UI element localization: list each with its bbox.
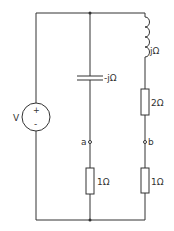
source-plus: + xyxy=(33,106,40,115)
resistor-middle xyxy=(86,168,94,194)
inductor xyxy=(145,13,150,89)
resistor-middle-label: 1Ω xyxy=(97,177,110,187)
capacitor-label: -jΩ xyxy=(104,73,117,83)
node-a-label: a xyxy=(81,137,87,147)
node-b-terminal xyxy=(144,141,147,144)
circuit-diagram: V + - -jΩ jΩ 2Ω a b 1Ω 1Ω xyxy=(0,0,174,231)
junction-bottom xyxy=(89,219,92,222)
node-b-label: b xyxy=(148,137,154,147)
junction-top xyxy=(89,12,92,15)
resistor-right-bottom-label: 1Ω xyxy=(151,177,164,187)
source-minus: - xyxy=(34,119,37,129)
inductor-label: jΩ xyxy=(149,46,160,56)
resistor-right-bottom xyxy=(141,168,149,193)
resistor-right-top-label: 2Ω xyxy=(151,98,164,108)
node-a-terminal xyxy=(89,141,92,144)
source-label: V xyxy=(13,113,20,123)
resistor-right-top xyxy=(141,89,149,115)
